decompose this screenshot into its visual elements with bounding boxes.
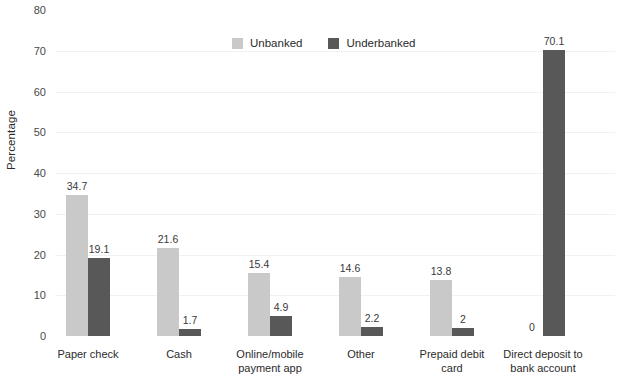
x-axis-label-line: bank account — [478, 361, 608, 375]
x-axis-label-line: payment app — [205, 361, 335, 375]
legend-item-underbanked[interactable]: Underbanked — [328, 37, 415, 49]
bar-value-label: 15.4 — [249, 258, 269, 270]
bar-group: 14.62.2Other — [339, 10, 383, 336]
bar[interactable]: 34.7 — [66, 195, 88, 336]
bar-group: 34.719.1Paper check — [66, 10, 110, 336]
legend-label: Unbanked — [250, 37, 302, 49]
legend-label: Underbanked — [346, 37, 415, 49]
y-tick-label: 80 — [34, 4, 46, 16]
bar-value-label: 13.8 — [431, 265, 451, 277]
bar-chart: Percentage 01020304050607080 34.719.1Pap… — [0, 0, 621, 381]
bar[interactable]: 2.2 — [361, 327, 383, 336]
bar-value-label: 2.2 — [365, 312, 380, 324]
y-tick-label: 70 — [34, 45, 46, 57]
bar-value-label: 34.7 — [67, 180, 87, 192]
bar[interactable]: 13.8 — [430, 280, 452, 336]
bar-value-label: 19.1 — [89, 243, 109, 255]
bar[interactable]: 21.6 — [157, 248, 179, 336]
y-tick-label: 10 — [34, 289, 46, 301]
legend-swatch-icon — [232, 38, 243, 49]
legend: Unbanked Underbanked — [232, 37, 416, 49]
bar-value-label: 21.6 — [158, 233, 178, 245]
bar[interactable]: 70.1 — [543, 50, 565, 336]
bar-group: 15.44.9Online/mobilepayment app — [248, 10, 292, 336]
x-axis-label-line: Direct deposit to — [478, 347, 608, 361]
y-tick-label: 30 — [34, 208, 46, 220]
bar[interactable]: 14.6 — [339, 277, 361, 336]
y-tick-label: 50 — [34, 126, 46, 138]
bar-value-label: 14.6 — [340, 262, 360, 274]
legend-item-unbanked[interactable]: Unbanked — [232, 37, 302, 49]
bar-group: 21.61.7Cash — [157, 10, 201, 336]
y-tick-label: 40 — [34, 167, 46, 179]
legend-swatch-icon — [328, 38, 339, 49]
bar-value-label: 4.9 — [274, 301, 289, 313]
bar[interactable]: 2 — [452, 328, 474, 336]
bar-value-label: 70.1 — [544, 35, 564, 47]
bar[interactable]: 1.7 — [179, 329, 201, 336]
plot-area: 01020304050607080 34.719.1Paper check21.… — [55, 10, 615, 336]
bar-value-label: 1.7 — [183, 314, 198, 326]
bar-group: 070.1Direct deposit tobank account — [521, 10, 565, 336]
bar-value-label: 0 — [529, 321, 535, 333]
bar[interactable]: 15.4 — [248, 273, 270, 336]
bar[interactable]: 19.1 — [88, 258, 110, 336]
x-axis-label: Direct deposit tobank account — [478, 347, 608, 375]
y-tick-label: 60 — [34, 86, 46, 98]
y-axis-title: Percentage — [5, 95, 17, 185]
bar[interactable]: 4.9 — [270, 316, 292, 336]
y-tick-label: 20 — [34, 249, 46, 261]
bar-value-label: 2 — [460, 313, 466, 325]
bar-group: 13.82Prepaid debitcard — [430, 10, 474, 336]
y-tick-label: 0 — [40, 330, 46, 342]
